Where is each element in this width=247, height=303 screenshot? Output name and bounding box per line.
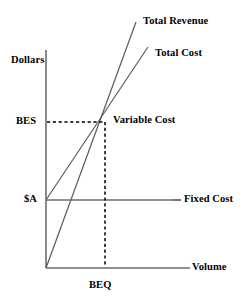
fixed-cost-intercept-label: $A [24, 194, 37, 205]
y-axis-label: Dollars [11, 55, 44, 66]
chart-canvas [0, 0, 247, 303]
beq-axis-label: BEQ [89, 280, 111, 291]
bes-axis-label: BES [16, 116, 36, 127]
total-revenue-line [46, 22, 136, 268]
series-label-variable-cost: Variable Cost [113, 115, 175, 126]
series-label-fixed-cost: Fixed Cost [184, 194, 233, 205]
break-even-chart: Total Revenue Total Cost Dollars BES Var… [0, 0, 247, 303]
series-label-total-revenue: Total Revenue [143, 16, 208, 27]
x-axis-label: Volume [192, 262, 227, 273]
series-label-total-cost: Total Cost [155, 48, 202, 59]
